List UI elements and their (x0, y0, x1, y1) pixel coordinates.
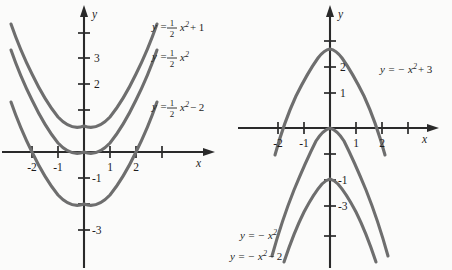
req2-exponent: 2 (273, 228, 277, 237)
left-ytick--3: -3 (92, 224, 102, 236)
equation-label-neg-x2: y = − x2 (239, 228, 277, 241)
left-graph-svg: y x -2 -1 1 2 3 2 -1 -3 y = 1 2 x2+ 1 (0, 0, 226, 270)
svg-text:y =: y = (151, 20, 167, 32)
left-ytick-2: 2 (94, 78, 100, 90)
right-ytick--3: -3 (338, 200, 348, 212)
equation-label-neg-x2-minus-2: y = − x2− 2 (229, 249, 282, 262)
req2-head: y = − x (239, 229, 273, 241)
eq3-tail: − 2 (190, 101, 204, 113)
eq1-lhs: y = (151, 20, 167, 32)
svg-text:y = − x2+ 3: y = − x2+ 3 (379, 62, 433, 75)
equation-label-half-x2-plus-1: y = 1 2 x2+ 1 (151, 18, 204, 39)
right-x-axis (238, 124, 439, 132)
x-axis-arrow-head (203, 148, 215, 156)
svg-text:y = − x2: y = − x2 (239, 228, 277, 241)
left-ytick-3: 3 (94, 52, 100, 64)
eq3-frac-denominator: 2 (170, 109, 175, 119)
right-y-axis-label: y (337, 8, 344, 21)
right-ytick--1: -1 (338, 174, 348, 186)
eq1-frac-denominator: 2 (170, 29, 175, 39)
left-xtick-2: 2 (133, 161, 139, 173)
left-y-axis (80, 5, 88, 268)
req1-head: y = − x (379, 63, 413, 75)
eq2-frac-denominator: 2 (170, 59, 175, 69)
eq2-lhs: y = (151, 50, 167, 62)
y-axis-arrow-head (80, 5, 88, 17)
equation-label-half-x2: y = 1 2 x2 (151, 48, 189, 69)
right-y-axis (326, 5, 334, 268)
req1-exponent: 2 (413, 62, 417, 71)
left-xtick-1: 1 (107, 161, 113, 173)
req1-tail: + 3 (418, 63, 433, 75)
left-y-axis-label: y (91, 8, 98, 21)
right-xtick-1: 1 (353, 137, 359, 149)
left-xtick--1: -1 (53, 161, 63, 173)
eq3-exponent: 2 (185, 100, 189, 109)
eq2-frac-numerator: 1 (170, 48, 175, 58)
eq1-exponent: 2 (185, 20, 189, 29)
req3-exponent: 2 (263, 249, 267, 258)
equation-label-neg-x2-plus-3: y = − x2+ 3 (379, 62, 433, 75)
eq2-exponent: 2 (185, 50, 189, 59)
y-axis-arrow-head (326, 5, 334, 17)
eq3-lhs: y = (151, 100, 167, 112)
eq1-tail: + 1 (190, 21, 204, 33)
eq1-frac-numerator: 1 (170, 18, 175, 28)
svg-text:x2− 2: x2− 2 (179, 100, 204, 113)
right-ytick-2: 2 (340, 61, 346, 73)
svg-text:y = − x2− 2: y = − x2− 2 (229, 249, 282, 262)
right-ytick-1: 1 (340, 87, 346, 99)
eq3-frac-numerator: 1 (170, 98, 175, 108)
equation-label-half-x2-minus-2: y = 1 2 x2− 2 (151, 98, 204, 119)
right-xtick--2: -2 (273, 137, 283, 149)
left-x-axis-label: x (195, 157, 202, 169)
left-xtick--2: -2 (27, 161, 37, 173)
right-xtick--1: -1 (299, 137, 309, 149)
left-graph-panel: y x -2 -1 1 2 3 2 -1 -3 y = 1 2 x2+ 1 (0, 0, 226, 270)
left-ytick--1: -1 (92, 172, 102, 184)
svg-text:x2: x2 (179, 50, 189, 63)
req3-head: y = − x (229, 250, 263, 262)
right-graph-svg: y x -2 -1 1 2 2 1 -1 -3 y = − x2+ 3 y = … (226, 0, 452, 270)
right-graph-panel: y x -2 -1 1 2 2 1 -1 -3 y = − x2+ 3 y = … (226, 0, 452, 270)
right-x-axis-label: x (421, 133, 428, 145)
right-xtick-2: 2 (379, 137, 385, 149)
parabola-figure: y x -2 -1 1 2 3 2 -1 -3 y = 1 2 x2+ 1 (0, 0, 452, 270)
svg-text:x2+ 1: x2+ 1 (179, 20, 204, 33)
svg-text:y =: y = (151, 50, 167, 62)
x-axis-arrow-head (427, 124, 439, 132)
svg-text:y =: y = (151, 100, 167, 112)
req3-tail: − 2 (268, 250, 282, 262)
